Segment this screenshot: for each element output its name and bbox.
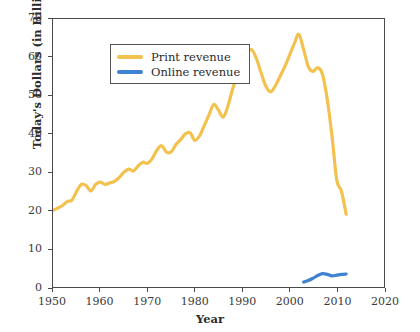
y-tick-label: 40: [12, 127, 42, 140]
x-tick-label: 2020: [365, 295, 405, 308]
x-tickmark: [52, 288, 53, 292]
y-tick-label: 0: [12, 281, 42, 294]
y-tick-label: 20: [12, 204, 42, 217]
y-tick-label: 70: [12, 11, 42, 24]
x-tickmark: [194, 288, 195, 292]
x-tick-label: 1980: [175, 295, 215, 308]
x-tickmark: [289, 288, 290, 292]
y-tickmark: [48, 56, 52, 57]
online-revenue-line: [304, 274, 347, 282]
chart-figure: Today's Dollars (in Billions) Print reve…: [0, 0, 420, 332]
legend-item-print: Print revenue: [117, 49, 240, 64]
legend-item-online: Online revenue: [117, 64, 240, 79]
legend-swatch-online: [117, 70, 143, 74]
x-tickmark: [337, 288, 338, 292]
plot-area: Print revenue Online revenue: [52, 18, 385, 288]
y-tickmark: [48, 18, 52, 19]
x-tickmark: [385, 288, 386, 292]
legend-label-online: Online revenue: [151, 65, 240, 79]
y-tick-label: 10: [12, 242, 42, 255]
x-tickmark: [242, 288, 243, 292]
legend-swatch-print: [117, 55, 143, 59]
y-tick-label: 60: [12, 50, 42, 63]
y-tick-label: 30: [12, 165, 42, 178]
x-axis-title: Year: [0, 312, 420, 326]
y-tickmark: [48, 133, 52, 134]
y-tickmark: [48, 249, 52, 250]
x-tickmark: [147, 288, 148, 292]
x-tick-label: 2010: [317, 295, 357, 308]
x-tickmark: [99, 288, 100, 292]
y-tickmark: [48, 172, 52, 173]
x-tick-label: 1990: [222, 295, 262, 308]
x-tick-label: 2000: [270, 295, 310, 308]
x-tick-label: 1950: [32, 295, 72, 308]
y-tickmark: [48, 95, 52, 96]
x-tick-label: 1960: [80, 295, 120, 308]
y-tickmark: [48, 210, 52, 211]
legend-label-print: Print revenue: [151, 50, 231, 64]
x-tick-label: 1970: [127, 295, 167, 308]
chart-legend: Print revenue Online revenue: [110, 44, 250, 84]
y-tick-label: 50: [12, 88, 42, 101]
